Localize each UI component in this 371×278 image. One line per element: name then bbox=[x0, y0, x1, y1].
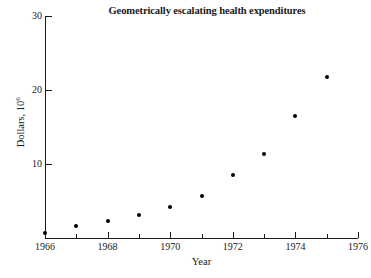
data-point bbox=[262, 152, 266, 156]
x-tick-mark bbox=[170, 232, 171, 238]
x-tick-mark-minor bbox=[139, 234, 140, 238]
x-tick-label: 1968 bbox=[88, 241, 128, 252]
x-tick-mark-minor bbox=[264, 234, 265, 238]
x-tick-label: 1970 bbox=[150, 241, 190, 252]
y-tick-mark bbox=[46, 164, 52, 165]
y-axis-title: Dollars, 106 bbox=[14, 72, 27, 172]
y-axis-line bbox=[45, 16, 46, 238]
x-tick-label: 1972 bbox=[213, 241, 253, 252]
y-tick-mark bbox=[46, 90, 52, 91]
data-point bbox=[137, 213, 141, 217]
data-point bbox=[231, 173, 235, 177]
x-tick-mark bbox=[358, 232, 359, 238]
x-axis-title: Year bbox=[45, 256, 358, 267]
data-point bbox=[43, 231, 47, 235]
x-tick-mark bbox=[233, 232, 234, 238]
x-axis-line bbox=[45, 238, 358, 239]
x-tick-mark bbox=[295, 232, 296, 238]
data-point bbox=[325, 75, 329, 79]
y-tick-label: 30 bbox=[0, 11, 42, 21]
x-tick-label: 1974 bbox=[275, 241, 315, 252]
y-axis-title-text: Dollars, 10 bbox=[15, 101, 26, 148]
y-tick-mark bbox=[46, 16, 52, 17]
data-point bbox=[293, 114, 297, 118]
data-point bbox=[106, 219, 110, 223]
x-tick-mark bbox=[108, 232, 109, 238]
y-axis-title-exponent: 6 bbox=[14, 97, 22, 101]
x-tick-label: 1966 bbox=[25, 241, 65, 252]
data-point bbox=[168, 205, 172, 209]
data-point bbox=[74, 224, 78, 228]
x-tick-mark-minor bbox=[327, 234, 328, 238]
x-tick-mark-minor bbox=[202, 234, 203, 238]
y-tick-label-wrap: 30 bbox=[0, 11, 42, 21]
x-tick-label: 1976 bbox=[338, 241, 371, 252]
x-tick-mark-minor bbox=[76, 234, 77, 238]
chart-figure: Geometrically escalating health expendit… bbox=[0, 0, 371, 278]
chart-title: Geometrically escalating health expendit… bbox=[62, 5, 352, 16]
data-point bbox=[200, 194, 204, 198]
